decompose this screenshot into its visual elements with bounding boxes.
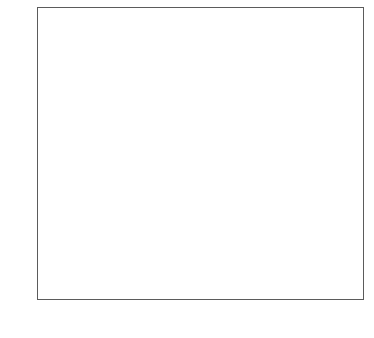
scatter-chart-figure — [0, 0, 374, 338]
plot-area — [37, 7, 364, 300]
